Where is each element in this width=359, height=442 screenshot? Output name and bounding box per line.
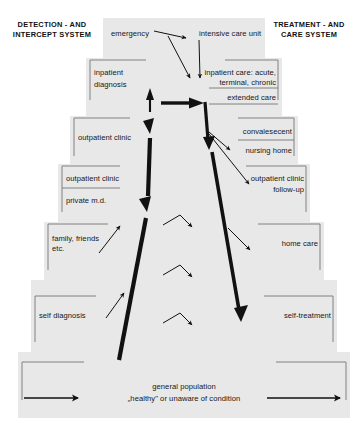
diagram-canvas: DETECTION - AND INTERCEPT SYSTEM TREATME… [0,0,359,442]
label-self-treatment: self-treatment [260,311,331,321]
header-left-line-1: DETECTION - AND [4,20,100,30]
header-right: TREATMENT - AND CARE SYSTEM [262,20,356,40]
header-left: DETECTION - AND INTERCEPT SYSTEM [4,20,100,40]
tier-5-band [44,222,324,280]
label-emergency: emergency [111,29,149,39]
label-convalesecent: convalesecent [222,127,292,137]
header-left-line-2: INTERCEPT SYSTEM [4,30,100,40]
label-family-friends-line-2: etc. [52,244,64,254]
label-outpatient-followup-line-2: follow-up [234,185,304,195]
label-outpatient-followup-line-1: outpatient clinic [234,174,304,184]
pyramid-artwork [0,0,359,442]
label-nursing-home: nursing home [222,146,292,156]
label-self-diagnosis: self diagnosis [39,311,86,321]
label-outpatient-clinic-tier3: outpatient clinic [78,133,131,143]
label-inpatient-care-line-1: inpatient care: acute, [198,68,276,78]
label-private-md: private m.d. [66,196,106,206]
label-intensive-care-unit: intensive care unit [199,29,261,39]
label-inpatient-care-line-2: terminal, chronic [198,78,276,88]
label-inpatient-diagnosis-line-1: inpatient [94,68,123,78]
label-outpatient-clinic-tier4: outpatient clinic [66,174,119,184]
header-right-line-1: TREATMENT - AND [262,20,356,30]
label-extended-care: extended care [206,93,276,103]
pyramid-tiers [18,18,350,418]
label-family-friends-line-1: family, friends [52,234,99,244]
label-general-population-line-2: „healthy" or unaware of condition [94,394,274,404]
label-home-care: home care [248,239,318,249]
header-right-line-2: CARE SYSTEM [262,30,356,40]
label-inpatient-diagnosis-line-2: diagnosis [94,80,127,90]
label-general-population-line-1: general population [104,382,264,392]
